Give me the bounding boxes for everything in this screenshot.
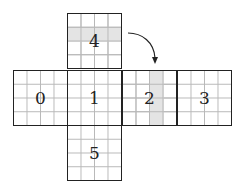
face-4: 4 [67,13,122,69]
face-0: 0 [13,70,68,126]
face-4-label: 4 [68,14,121,68]
face-5-label: 5 [68,126,121,180]
face-5: 5 [67,125,122,181]
face-2: 2 [122,70,177,126]
face-2-label: 2 [123,71,176,125]
face-1: 1 [67,70,122,126]
face-1-label: 1 [68,71,121,125]
face-3-label: 3 [178,71,231,125]
face-3: 3 [177,70,232,126]
face-0-label: 0 [14,71,67,125]
